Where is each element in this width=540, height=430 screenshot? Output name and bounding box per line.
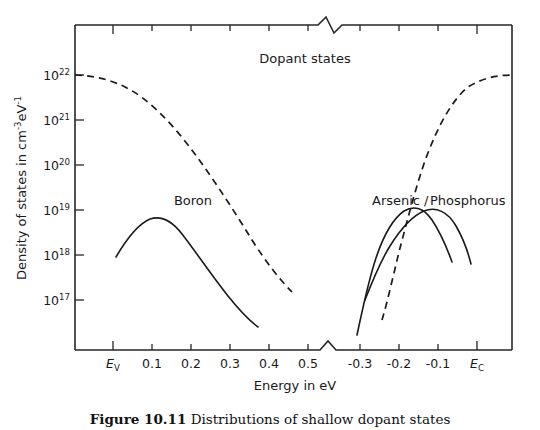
dopant-states-chart: 1017 1018 1019 1020 1021 1022 xyxy=(0,0,540,430)
figure-caption: Figure 10.11 Distributions of shallow do… xyxy=(0,404,540,430)
curve-phosphorus xyxy=(365,209,471,300)
x-tick-labels-right: -0.3 -0.2 -0.1 EC xyxy=(348,356,484,373)
y-tick-labels: 1017 1018 1019 1020 1021 1022 xyxy=(43,67,70,308)
plot-title: Dopant states xyxy=(259,51,351,66)
y-tick-label-1e17: 1017 xyxy=(43,292,70,308)
curve-label-boron: Boron xyxy=(174,193,212,208)
bottom-axis-with-break xyxy=(75,341,512,350)
x-tick-label-ev: EV xyxy=(106,356,120,373)
x-tick-label-0.3: 0.3 xyxy=(220,356,240,371)
curve-valence-band-tail xyxy=(75,75,292,292)
x-tick-label-ec: EC xyxy=(470,356,484,373)
x-tick-label-0.1: 0.1 xyxy=(142,356,162,371)
figure-caption-number: Figure 10.11 xyxy=(90,411,187,427)
x-tick-marks-top xyxy=(113,25,477,34)
y-tick-label-1e18: 1018 xyxy=(43,247,70,263)
y-tick-label-1e21: 1021 xyxy=(43,112,70,128)
x-tick-label-neg0.1: -0.1 xyxy=(426,356,450,371)
x-axis-title: Energy in eV xyxy=(254,378,337,393)
y-tick-label-1e20: 1020 xyxy=(43,157,70,173)
curve-label-arsenic: Arsenic xyxy=(372,193,420,208)
x-tick-label-0.5: 0.5 xyxy=(298,356,318,371)
y-tick-label-1e19: 1019 xyxy=(43,202,70,218)
top-axis-with-break xyxy=(75,17,512,33)
figure-root: 1017 1018 1019 1020 1021 1022 xyxy=(0,0,540,430)
x-tick-label-0.2: 0.2 xyxy=(181,356,201,371)
curve-label-phosphorus: Phosphorus xyxy=(430,193,506,208)
x-tick-labels-left: EV 0.1 0.2 0.3 0.4 0.5 xyxy=(106,356,318,373)
x-tick-label-neg0.3: -0.3 xyxy=(348,356,372,371)
x-tick-marks-bottom xyxy=(113,341,477,350)
x-tick-label-0.4: 0.4 xyxy=(259,356,279,371)
curve-label-slash: / xyxy=(424,193,429,208)
figure-caption-text: Distributions of shallow dopant states xyxy=(191,411,451,427)
y-tick-marks xyxy=(75,75,84,300)
y-axis-title: Density of states in cm-3eV-1 xyxy=(13,96,29,280)
curve-boron xyxy=(116,218,258,327)
x-tick-label-neg0.2: -0.2 xyxy=(387,356,411,371)
y-tick-label-1e22: 1022 xyxy=(43,67,70,83)
